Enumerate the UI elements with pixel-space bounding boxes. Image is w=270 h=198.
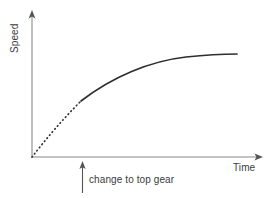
speed-time-graph-figure: Speed Time change to top gear bbox=[0, 0, 270, 198]
curve-segment-solid-top-gear bbox=[81, 54, 237, 101]
change-to-top-gear-arrow bbox=[79, 161, 85, 193]
change-to-top-gear-label: change to top gear bbox=[89, 174, 174, 185]
time-axis-label: Time bbox=[233, 162, 255, 173]
time-axis bbox=[32, 154, 263, 161]
graph-canvas bbox=[0, 0, 270, 198]
curve-segment-dashed-lower-gears bbox=[32, 101, 81, 157]
speed-axis bbox=[29, 10, 36, 157]
speed-axis-label: Speed bbox=[9, 28, 20, 39]
speed-axis-label-text: Speed bbox=[9, 42, 20, 53]
